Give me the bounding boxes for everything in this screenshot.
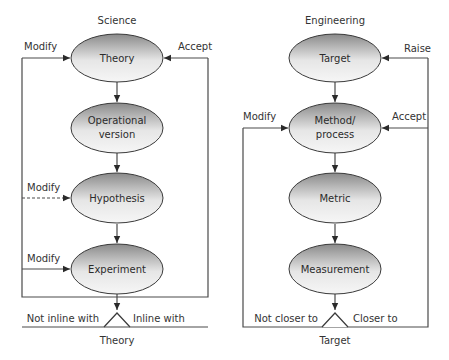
svg-text:Target: Target xyxy=(319,53,351,64)
node-method-process: Method/ process xyxy=(289,103,381,153)
svg-text:Experiment: Experiment xyxy=(88,264,146,275)
label-modify-theory: Modify xyxy=(24,41,57,52)
svg-text:version: version xyxy=(99,129,136,140)
science-title: Science xyxy=(98,15,137,26)
node-theory: Theory xyxy=(71,34,163,82)
science-decision-triangle xyxy=(104,313,130,327)
node-hypothesis: Hypothesis xyxy=(71,173,163,223)
svg-text:Operational: Operational xyxy=(88,115,147,126)
node-metric: Metric xyxy=(289,173,381,223)
node-target: Target xyxy=(289,34,381,82)
svg-text:Theory: Theory xyxy=(99,53,135,64)
node-experiment: Experiment xyxy=(71,244,163,294)
label-raise: Raise xyxy=(404,43,431,54)
node-operational-version: Operational version xyxy=(71,103,163,153)
label-modify: Modify xyxy=(243,111,276,122)
label-accept: Accept xyxy=(178,41,212,52)
label-accept: Accept xyxy=(392,111,426,122)
label-inline: Inline with xyxy=(133,313,185,324)
science-engineering-diagram: Science Theory Operational version xyxy=(0,0,449,360)
label-modify-hypothesis: Modify xyxy=(27,182,60,193)
label-closer: Closer to xyxy=(353,313,398,324)
label-not-inline: Not inline with xyxy=(27,313,99,324)
svg-text:Metric: Metric xyxy=(319,193,350,204)
engineering-decision-triangle xyxy=(322,313,348,327)
label-not-closer: Not closer to xyxy=(254,313,318,324)
science-panel: Science Theory Operational version xyxy=(22,15,212,346)
label-modify-experiment: Modify xyxy=(27,253,60,264)
svg-text:Measurement: Measurement xyxy=(301,264,370,275)
node-measurement: Measurement xyxy=(289,244,381,294)
svg-text:process: process xyxy=(316,129,354,140)
label-decision-theory: Theory xyxy=(99,335,135,346)
engineering-panel: Engineering Target Method/ process Metri… xyxy=(243,15,431,346)
svg-text:Method/: Method/ xyxy=(315,115,357,126)
svg-text:Hypothesis: Hypothesis xyxy=(89,193,145,204)
label-decision-target: Target xyxy=(319,335,351,346)
engineering-title: Engineering xyxy=(305,15,365,26)
